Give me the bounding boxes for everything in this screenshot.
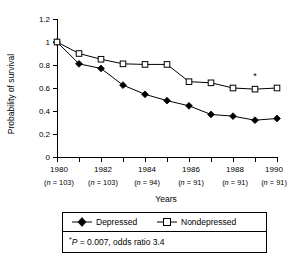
legend-label-nondepressed: Nondepressed (181, 217, 237, 227)
data-point-open-square (142, 62, 148, 68)
data-point-filled-diamond (142, 91, 149, 98)
y-tick-labels: 1.2 1 0.8 0.6 0.4 0.2 0 (39, 15, 51, 162)
series-depressed (54, 39, 281, 124)
data-point-open-square (98, 56, 104, 62)
y-tick-label: 1 (46, 38, 51, 47)
sample-size-label: (n = 91) (261, 178, 287, 187)
x-tick-labels: 1980 1982 1984 1986 1988 1990 (50, 165, 283, 174)
x-tick-label: 1988 (226, 165, 244, 174)
data-point-open-square (208, 80, 214, 86)
x-tick-label: 1982 (94, 165, 112, 174)
x-tickmarks (57, 157, 277, 162)
sample-size-label: (n = 94) (134, 178, 160, 187)
data-point-filled-diamond (208, 111, 215, 118)
y-tick-label: 0.4 (39, 107, 51, 116)
data-point-open-square (120, 61, 126, 67)
data-point-open-square (230, 85, 236, 91)
y-tick-label: 0.2 (39, 130, 51, 139)
y-axis-title: Probability of survival (6, 54, 16, 134)
legend-item-depressed[interactable]: Depressed (72, 217, 137, 227)
x-tick-label: 1986 (182, 165, 200, 174)
x-axis-title: Years (155, 194, 176, 204)
sample-size-label: (n = 103) (88, 178, 118, 187)
chart-figure: Probability of survival 1.2 1 0.8 0.6 0.… (0, 0, 288, 256)
y-tick-label: 1.2 (39, 15, 51, 24)
data-point-open-square (274, 85, 280, 91)
data-point-open-square (54, 39, 60, 45)
series-line (57, 42, 277, 120)
y-tick-label: 0.8 (39, 61, 51, 70)
legend: Depressed Nondepressed *P = 0.007, odds … (62, 212, 266, 252)
data-point-filled-diamond (164, 97, 171, 104)
x-tick-sublabels: (n = 103) (n = 103) (n = 94) (n = 91) (n… (44, 178, 287, 187)
open-square-icon (164, 219, 171, 226)
data-point-open-square (164, 62, 170, 68)
legend-label-depressed: Depressed (96, 217, 137, 227)
x-tick-label: 1984 (138, 165, 156, 174)
legend-footnote: *P = 0.007, odds ratio 3.4 (69, 236, 165, 247)
data-point-filled-diamond (252, 117, 259, 124)
data-point-open-square (252, 86, 258, 92)
significance-asterisk: * (253, 71, 257, 81)
y-tick-label: 0.6 (39, 84, 51, 93)
sample-size-label: (n = 91) (222, 178, 248, 187)
x-tick-label: 1980 (50, 165, 68, 174)
filled-diamond-icon (78, 218, 86, 227)
sample-size-label: (n = 103) (44, 178, 74, 187)
plot-data-layer (54, 39, 281, 124)
legend-item-nondepressed[interactable]: Nondepressed (157, 217, 237, 227)
data-point-filled-diamond (230, 113, 237, 120)
sample-size-label: (n = 91) (178, 178, 204, 187)
x-tick-label: 1990 (265, 165, 283, 174)
survival-probability-chart: Probability of survival 1.2 1 0.8 0.6 0.… (0, 0, 288, 256)
y-tick-label: 0 (46, 153, 51, 162)
data-point-filled-diamond (186, 102, 193, 109)
data-point-filled-diamond (274, 115, 281, 122)
data-point-open-square (186, 79, 192, 85)
data-point-open-square (76, 51, 82, 57)
